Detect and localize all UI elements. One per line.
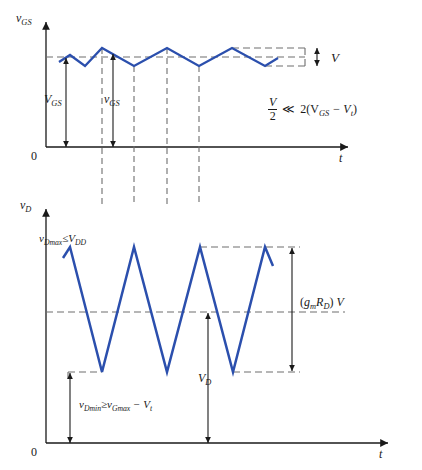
bottom-plot-y-axis-label: vD: [20, 199, 31, 215]
rhs-open: 2(V: [300, 102, 319, 116]
signal-subscript: GS: [109, 99, 119, 108]
bottom-y-axis-subscript: D: [25, 205, 31, 214]
bottom-plot-measure-arrows: [70, 248, 292, 443]
min-constraint-minus: − V: [130, 398, 150, 410]
bottom-plot-origin-label: 0: [31, 446, 37, 458]
bottom-plot-x-axis-label: t: [379, 448, 382, 460]
top-plot-signal-label: vGS: [104, 93, 120, 109]
top-plot-x-axis-label: t: [339, 152, 342, 164]
bias-subscript: GS: [51, 99, 61, 108]
bottom-plot-gain-label: (gmRD) V: [300, 296, 344, 312]
bottom-waveform-trace: [63, 247, 273, 372]
top-plot-y-axis-label: vGS: [16, 12, 32, 28]
fraction-numerator: V: [268, 96, 277, 109]
top-plot-amplitude-label: V: [331, 51, 339, 64]
rhs-minus: − V: [329, 102, 350, 116]
gain-v-symbol: V: [336, 295, 343, 309]
min-constraint-rhs-sub: Gmax: [112, 404, 130, 413]
max-constraint-lhs-sub: Dmax: [44, 238, 62, 247]
top-y-axis-subscript: GS: [21, 18, 31, 27]
top-plot-bias-label: VGS: [44, 93, 62, 109]
fraction-v-over-2: V 2: [268, 96, 277, 122]
rhs-close: ): [353, 102, 357, 116]
min-constraint-minus-sub: t: [150, 404, 152, 413]
top-plot-inequality: V 2 ≪ 2(VGS − Vt): [268, 97, 357, 123]
dc-subscript: D: [205, 378, 211, 387]
max-constraint-rhs-sub: DD: [75, 238, 86, 247]
inequality-rhs: 2(VGS − Vt): [300, 102, 357, 116]
gain-close-paren: ): [329, 295, 333, 309]
top-plot-origin-label: 0: [31, 150, 37, 162]
bottom-plot-min-constraint: vDmin≥vGmax − Vt: [79, 399, 152, 413]
rhs-sub-gs: GS: [319, 109, 329, 118]
bottom-plot-dc-label: VD: [198, 372, 211, 388]
top-plot-dashed-guides: [46, 48, 305, 205]
fraction-denominator: 2: [268, 109, 277, 123]
figure-container: vGS 0 t VGS vGS V V 2 ≪ 2(VGS − Vt) vD 0…: [0, 0, 422, 470]
much-less-than-operator: ≪: [280, 102, 297, 116]
bottom-plot-max-constraint: vDmax≤VDD: [39, 233, 86, 247]
min-constraint-lhs-sub: Dmin: [84, 404, 101, 413]
top-plot-axes: [46, 22, 348, 147]
